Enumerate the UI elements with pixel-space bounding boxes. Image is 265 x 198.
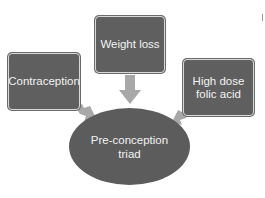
node-label: High dose folic acid xyxy=(193,75,245,101)
node-pre-conception-triad: Pre-conception triad xyxy=(69,108,190,185)
arrow-down-icon xyxy=(119,75,141,104)
node-weight-loss: Weight loss xyxy=(95,16,165,73)
node-high-dose-folic-acid: High dose folic acid xyxy=(183,59,254,116)
node-contraception: Contraception xyxy=(8,53,80,110)
node-label: Pre-conception triad xyxy=(91,133,168,161)
edge-mark xyxy=(262,14,263,21)
node-label: Weight loss xyxy=(100,38,159,51)
node-label: Contraception xyxy=(8,75,80,88)
